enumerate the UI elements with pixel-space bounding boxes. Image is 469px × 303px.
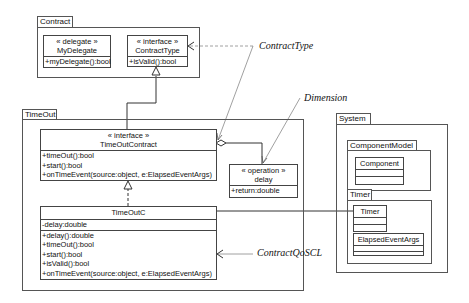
package-label: System [339, 114, 366, 123]
operations [356, 177, 403, 183]
stereotype: « interface » [128, 37, 187, 46]
operations: +myDelegate():bool [44, 57, 110, 67]
operation: +start():bool [42, 161, 215, 171]
operations: +return:double [230, 186, 297, 196]
stereotype: « interface » [41, 131, 216, 140]
operation: +onTimeEvent(source:object, e:ElapsedEve… [42, 170, 215, 180]
class-header: Component [356, 158, 403, 170]
operations: +isValid():bool [128, 57, 187, 67]
package-label: TimeOut [25, 110, 55, 119]
operations: +timeOut():bool +start():bool +onTimeEve… [41, 151, 216, 180]
operation: +isValid():bool [129, 57, 186, 67]
class-name: TimeOutC [41, 208, 216, 217]
attributes: -delay:double [41, 220, 216, 231]
class-timeoutcontract[interactable]: « interface » TimeOutContract +timeOut()… [40, 129, 217, 181]
operation: +start():bool [42, 250, 215, 260]
class-header: « interface » ContractType [128, 36, 187, 57]
operations: +delay():double +timeOut():bool +start()… [41, 231, 216, 279]
class-header: TimeOutC [41, 207, 216, 220]
class-name: ContractType [128, 46, 187, 55]
attributes [356, 170, 403, 177]
operation: +isValid():bool [42, 259, 215, 269]
stereotype: « operation » [230, 166, 297, 175]
operations [354, 225, 386, 231]
class-header: « operation » delay [230, 165, 297, 186]
attributes [354, 218, 386, 225]
stereotype: « delegate » [44, 37, 110, 46]
class-timeoutc[interactable]: TimeOutC -delay:double +delay():double +… [40, 206, 217, 280]
operation: +return:double [231, 186, 296, 196]
package-label: Timer [350, 190, 370, 199]
operation: +timeOut():bool [42, 240, 215, 250]
class-elapsedeventargs[interactable]: ElapsedEventArgs [353, 233, 424, 256]
annotation-dimension: Dimension [304, 92, 347, 103]
class-component[interactable]: Component [355, 157, 404, 185]
class-header: ElapsedEventArgs [354, 234, 423, 246]
class-name: MyDelegate [44, 46, 110, 55]
operations [354, 252, 423, 257]
class-header: Timer [354, 206, 386, 218]
class-name: ElapsedEventArgs [354, 235, 423, 244]
annotation-contracttype: ContractType [259, 40, 313, 51]
operation: +myDelegate():bool [45, 57, 109, 67]
attribute: -delay:double [42, 220, 215, 230]
class-name: TimeOutContract [41, 140, 216, 149]
operation: +timeOut():bool [42, 151, 215, 161]
class-name: Component [356, 159, 403, 168]
class-name: Timer [354, 207, 386, 216]
annotation-contractqoscl: ContractQoSCL [257, 247, 322, 258]
class-name: delay [230, 175, 297, 184]
class-header: « interface » TimeOutContract [41, 130, 216, 151]
class-timer[interactable]: Timer [353, 205, 387, 232]
class-delay[interactable]: « operation » delay +return:double [229, 164, 298, 198]
class-contracttype[interactable]: « interface » ContractType +isValid():bo… [127, 35, 188, 67]
class-header: « delegate » MyDelegate [44, 36, 110, 57]
package-label: ComponentModel [350, 141, 413, 150]
class-mydelegate[interactable]: « delegate » MyDelegate +myDelegate():bo… [43, 35, 111, 68]
package-label: Contract [40, 17, 70, 26]
operation: +delay():double [42, 231, 215, 241]
operation: +onTimeEvent(source:object, e:ElapsedEve… [42, 269, 215, 279]
